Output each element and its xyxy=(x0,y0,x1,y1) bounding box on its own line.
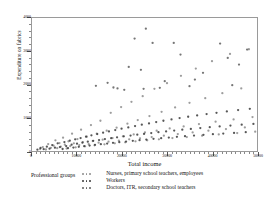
scatter-point xyxy=(222,132,224,134)
legend-marker-icon xyxy=(82,173,102,175)
scatter-point xyxy=(183,125,185,127)
scatter-point xyxy=(160,137,162,139)
x-tick-minor xyxy=(190,152,191,154)
scatter-point xyxy=(74,138,76,140)
scatter-point xyxy=(96,133,98,135)
scatter-point xyxy=(160,111,162,113)
legend-item-label: Workers xyxy=(106,178,125,184)
legend-entries: Nurses, primary school teachers, employe… xyxy=(82,171,203,191)
x-tick-minor xyxy=(240,152,241,154)
scatter-point xyxy=(202,134,204,136)
scatter-point xyxy=(47,143,49,145)
x-tick-minor xyxy=(226,152,227,154)
x-tick-label: 10000 xyxy=(56,154,96,158)
scatter-point xyxy=(153,88,155,90)
scatter-point xyxy=(173,42,175,44)
scatter-point xyxy=(169,127,171,129)
x-tick-minor xyxy=(58,152,59,154)
scatter-point xyxy=(79,137,81,139)
scatter-point xyxy=(252,123,254,125)
scatter-point xyxy=(231,84,233,86)
legend-title: Professional groups xyxy=(31,171,75,178)
scatter-point xyxy=(145,28,147,30)
scatter-point xyxy=(116,87,118,89)
scatter-point xyxy=(134,140,136,142)
scatter-point xyxy=(112,142,114,144)
scatter-series xyxy=(95,28,248,91)
scatter-point xyxy=(80,129,82,131)
scatter-point xyxy=(65,145,67,147)
scatter-point xyxy=(87,141,89,143)
legend-dot-icon xyxy=(89,180,91,182)
legend-dot-icon xyxy=(86,173,88,175)
scatter-point xyxy=(70,144,72,146)
scatter-point xyxy=(107,141,109,143)
scatter-point xyxy=(151,42,153,44)
scatter-point xyxy=(151,136,153,138)
legend-item[interactable]: Doctors, ITR, secondary school teachers xyxy=(82,185,203,191)
scatter-point xyxy=(194,78,196,80)
x-tick-label: 40000 xyxy=(193,154,233,158)
scatter-point xyxy=(73,142,75,144)
scatter-point xyxy=(126,123,128,125)
scatter-point xyxy=(39,147,41,149)
scatter-point xyxy=(150,132,152,134)
scatter-point xyxy=(106,82,108,84)
scatter-point xyxy=(90,134,92,136)
scatter-point xyxy=(226,110,228,112)
legend-item[interactable]: Workers xyxy=(82,178,203,184)
scatter-point xyxy=(56,147,58,149)
scatter-point xyxy=(106,142,108,144)
x-tick-minor xyxy=(194,152,195,154)
scatter-point xyxy=(116,136,118,138)
x-tick-label: 20000 xyxy=(102,154,142,158)
x-tick-minor xyxy=(63,152,64,154)
x-tick-minor xyxy=(140,152,141,154)
scatter-point xyxy=(166,82,168,84)
x-tick-minor xyxy=(99,152,100,154)
scatter-point xyxy=(174,106,176,108)
scatter-point xyxy=(57,142,59,144)
scatter-point xyxy=(184,135,186,137)
y-tick-label: 2000 xyxy=(9,82,31,86)
x-tick-minor xyxy=(40,152,41,154)
scatter-point xyxy=(202,72,204,74)
x-tick-minor xyxy=(253,152,254,154)
scatter-point xyxy=(51,144,53,146)
scatter-point xyxy=(233,132,235,134)
scatter-point xyxy=(244,126,246,128)
scatter-point xyxy=(178,117,180,119)
scatter-point xyxy=(158,138,160,140)
scatter-point xyxy=(99,120,101,122)
scatter-point xyxy=(132,140,134,142)
scatter-point xyxy=(219,125,221,127)
scatter-point xyxy=(165,130,167,132)
scatter-point xyxy=(168,136,170,138)
scatter-point xyxy=(140,69,142,71)
scatter-point xyxy=(48,148,50,150)
scatter-point xyxy=(78,146,80,148)
scatter-point xyxy=(120,128,122,130)
scatter-point xyxy=(188,102,190,104)
scatter-point xyxy=(62,137,64,139)
legend-dot-icon xyxy=(82,180,84,182)
x-tick-minor xyxy=(231,152,232,154)
x-tick-minor xyxy=(204,152,205,154)
legend-item[interactable]: Nurses, primary school teachers, employe… xyxy=(82,171,203,177)
x-tick-minor xyxy=(235,152,236,154)
scatter-series xyxy=(39,48,256,151)
scatter-point xyxy=(92,140,94,142)
x-tick-minor xyxy=(172,152,173,154)
scatter-point xyxy=(54,147,56,149)
scatter-point xyxy=(76,138,78,140)
legend-dot-icon xyxy=(86,187,88,189)
scatter-point xyxy=(76,143,78,145)
scatter-point xyxy=(246,48,248,50)
x-tick-minor xyxy=(126,152,127,154)
scatter-point xyxy=(69,140,71,142)
x-tick-minor xyxy=(158,152,159,154)
scatter-point xyxy=(54,139,56,141)
x-tick-minor xyxy=(117,152,118,154)
x-tick-minor xyxy=(45,152,46,154)
scatter-point xyxy=(123,89,125,91)
